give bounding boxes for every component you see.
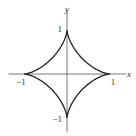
x-tick-label-neg1: −1 xyxy=(16,77,26,87)
astroid-plot: x y −1 1 1 −1 xyxy=(0,0,136,136)
x-axis-label: x xyxy=(126,69,131,79)
x-tick-label-1: 1 xyxy=(111,77,116,87)
y-axis-label: y xyxy=(64,4,69,14)
y-tick-label-1: 1 xyxy=(58,24,63,34)
y-tick-label-neg1: −1 xyxy=(52,114,62,124)
